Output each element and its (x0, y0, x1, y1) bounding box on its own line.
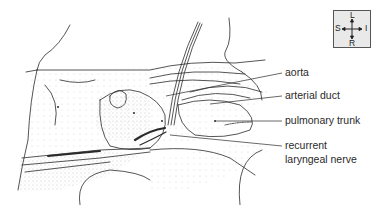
orientation-bottom-R: R (349, 39, 355, 48)
label-recurrent: recurrent (285, 139, 327, 152)
label-laryngeal-nerve: laryngeal nerve (285, 153, 357, 166)
orientation-compass: L S I R (333, 10, 371, 48)
orientation-right-I: I (365, 24, 367, 33)
label-arterial-duct: arterial duct (285, 89, 340, 102)
orientation-left-S: S (335, 24, 341, 33)
orientation-top-L: L (350, 11, 355, 20)
label-aorta: aorta (285, 66, 309, 79)
label-pulmonary-trunk: pulmonary trunk (285, 114, 360, 127)
